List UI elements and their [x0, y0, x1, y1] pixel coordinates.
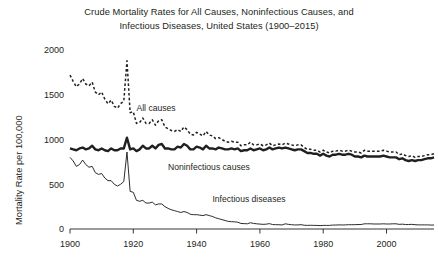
y-tick-label: 0 — [59, 224, 64, 234]
chart-figure: Crude Mortality Rates for All Causes, No… — [0, 0, 438, 257]
x-axis-tick-marks — [70, 229, 387, 234]
y-tick-label: 1500 — [44, 90, 64, 100]
series-line-noninfectious-causes — [70, 138, 434, 161]
y-tick-label: 500 — [49, 180, 64, 190]
series-label-infectious-diseases: Infectious diseases — [212, 194, 285, 204]
y-tick-label: 1000 — [44, 135, 64, 145]
series-label-noninfectious-causes: Noninfectious causes — [168, 162, 250, 172]
y-axis-tick-labels: 0500100015002000 — [44, 45, 64, 234]
y-axis-title: Mortality Rate per 100,000 — [14, 115, 24, 225]
x-tick-label: 1960 — [250, 239, 270, 249]
series-label-all-causes: All causes — [136, 103, 175, 113]
series-inline-labels: All causesNoninfectious causesInfectious… — [136, 103, 285, 204]
x-tick-label: 1920 — [123, 239, 143, 249]
x-tick-label: 1940 — [187, 239, 207, 249]
y-tick-label: 2000 — [44, 45, 64, 55]
x-tick-label: 1980 — [313, 239, 333, 249]
chart-plot-area: 0500100015002000 19001920194019601980200… — [0, 0, 438, 257]
series-line-infectious-diseases — [70, 152, 434, 226]
x-tick-label: 2000 — [377, 239, 397, 249]
x-axis-tick-labels: 190019201940196019802000 — [60, 239, 397, 249]
x-tick-label: 1900 — [60, 239, 80, 249]
